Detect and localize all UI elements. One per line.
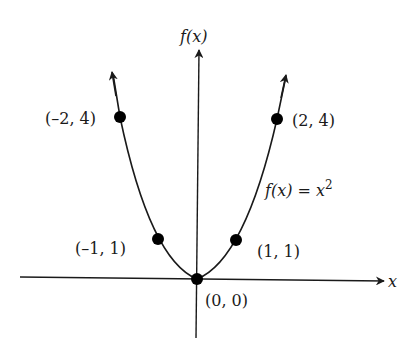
point-0-0 (191, 273, 203, 285)
point-neg1-1 (152, 233, 164, 245)
point-label-neg1-1: (–1, 1) (75, 239, 126, 258)
parabola-graph: x f(x) (–2, 4) (–1, 1) (0, 0) (1, 1) (2,… (0, 0, 414, 356)
point-2-4 (271, 113, 283, 125)
function-label: f(x) = x2 (264, 178, 333, 200)
point-label-0-0: (0, 0) (205, 291, 248, 310)
function-label-exponent: 2 (325, 178, 333, 192)
y-axis-label: f(x) (179, 27, 207, 46)
point-1-1 (230, 234, 242, 246)
function-label-base: f(x) = x (264, 181, 325, 200)
point-label-2-4: (2, 4) (292, 111, 335, 130)
point-label-neg2-4: (–2, 4) (45, 109, 96, 128)
curve-right-arrow (281, 75, 286, 98)
point-neg2-4 (114, 111, 126, 123)
y-axis (196, 50, 199, 338)
point-label-1-1: (1, 1) (257, 242, 300, 261)
x-axis-label: x (388, 272, 397, 291)
